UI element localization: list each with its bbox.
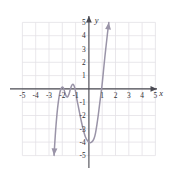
x-tick-label: -5 [19, 91, 25, 100]
y-tick-label: -5 [80, 151, 86, 160]
y-axis-arrowhead [86, 16, 92, 23]
graph-figure: -5-4-3-2-112345 54321-1-2-3-4-5 x y [0, 0, 170, 176]
x-tick-label: -1 [73, 91, 79, 100]
y-tick-label: 2 [82, 58, 86, 67]
y-axis [86, 16, 92, 168]
x-tick-label: -2 [59, 91, 65, 100]
x-axis-label: x [158, 89, 163, 98]
y-tick-label: -3 [80, 125, 86, 134]
y-tick-label: -1 [80, 98, 86, 107]
y-axis-label: y [94, 16, 99, 25]
curve-arrowhead-down-left [52, 148, 58, 155]
x-tick-label: -3 [46, 91, 52, 100]
y-tick-label: 5 [82, 18, 86, 27]
y-tick-label: -2 [80, 111, 86, 120]
x-tick-label: 3 [127, 91, 131, 100]
x-tick-label: -4 [33, 91, 39, 100]
y-tick-label: 1 [82, 71, 86, 80]
y-tick-label: -4 [80, 138, 86, 147]
x-tick-label: 1 [100, 91, 104, 100]
y-tick-label: 3 [82, 45, 86, 54]
x-tick-label: 2 [114, 91, 118, 100]
x-tick-label: 4 [140, 91, 144, 100]
coordinate-plane-svg: -5-4-3-2-112345 54321-1-2-3-4-5 x y [0, 0, 170, 176]
x-tick-label: 5 [154, 91, 158, 100]
y-tick-label: 4 [82, 31, 86, 40]
